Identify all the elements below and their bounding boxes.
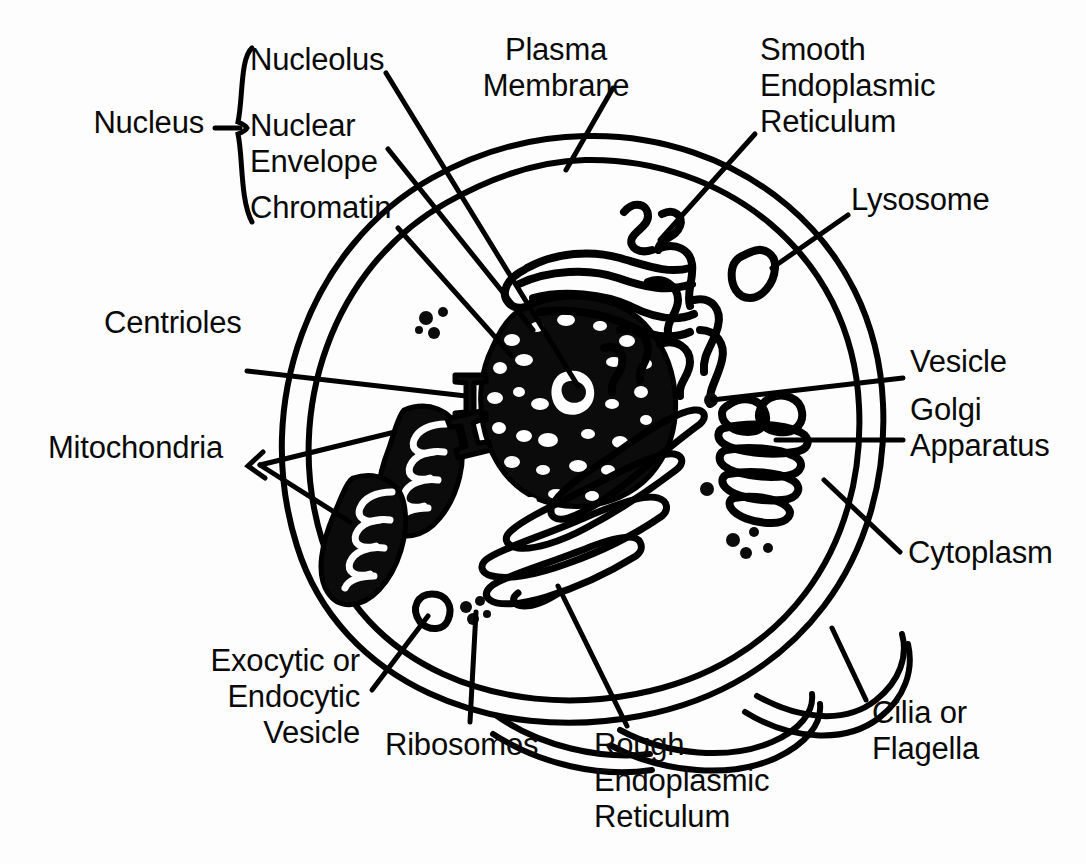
leader-vesicle [712, 378, 903, 400]
leader-rough-er [558, 586, 627, 726]
label-mitochondria: Mitochondria [48, 430, 223, 466]
label-lysosome: Lysosome [851, 182, 990, 218]
golgi-apparatus-shape [718, 396, 807, 523]
label-ribosomes: Ribosomes [385, 727, 538, 763]
nucleus-brace [215, 48, 252, 222]
label-chromatin: Chromatin [250, 190, 391, 226]
label-cilia-flagella: Cilia or Flagella [872, 695, 979, 767]
label-rough-er: Rough Endoplasmic Reticulum [594, 727, 769, 835]
leader-smooth-er [660, 134, 755, 240]
label-nuclear-envelope: Nuclear Envelope [250, 108, 378, 180]
label-plasma-membrane: Plasma Membrane [450, 32, 662, 104]
label-nucleus: Nucleus [56, 105, 204, 141]
mitochondrion-shape-2 [321, 476, 406, 605]
leader-nucleolus [386, 73, 578, 386]
label-cytoplasm: Cytoplasm [908, 535, 1053, 571]
lysosome-shape [732, 250, 775, 298]
label-golgi-apparatus: Golgi Apparatus [910, 392, 1050, 464]
label-centrioles: Centrioles [104, 305, 242, 341]
label-vesicle: Vesicle [910, 344, 1007, 380]
cell-diagram-page: Nucleus Nucleolus Nuclear Envelope Chrom… [0, 0, 1086, 864]
label-exocytic-vesicle: Exocytic or Endocytic Vesicle [130, 643, 360, 751]
leader-cilia [832, 628, 866, 700]
leader-centrioles [247, 371, 466, 396]
label-nucleolus: Nucleolus [250, 42, 384, 78]
label-smooth-er: Smooth Endoplasmic Reticulum [760, 32, 935, 140]
leader-ribosomes [470, 612, 476, 722]
leader-mitochondria-2 [260, 465, 350, 522]
